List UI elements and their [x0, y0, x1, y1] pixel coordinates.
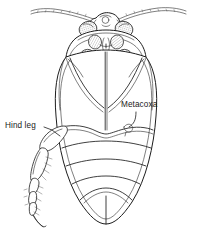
insect-diagram-svg	[0, 0, 206, 232]
hind-leg-label: Hind leg	[5, 122, 36, 130]
left-antenna	[31, 9, 96, 23]
hind-leg	[24, 126, 67, 227]
insect-anatomy-figure: Hind leg Metacoxa	[0, 0, 206, 232]
metacoxa-label: Metacoxa	[121, 101, 157, 109]
right-antenna	[117, 8, 186, 23]
